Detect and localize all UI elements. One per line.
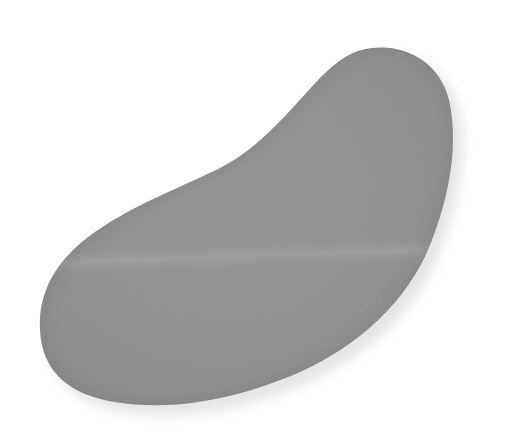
pebble-illustration <box>0 0 505 438</box>
photo-scene <box>0 0 505 438</box>
pebble <box>0 0 505 438</box>
